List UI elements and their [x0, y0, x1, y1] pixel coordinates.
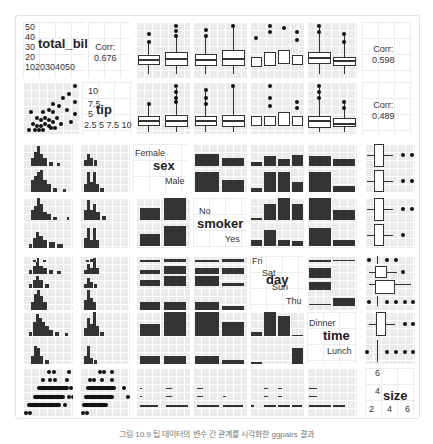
ytick: 5 — [88, 109, 93, 119]
scatter-size-total_bill — [23, 368, 73, 416]
strip-size-time — [307, 368, 357, 416]
bar-time-smoker — [193, 312, 247, 364]
level-label: Dinner — [309, 318, 336, 328]
diag-sex: Female sex Male — [133, 144, 187, 192]
bar-sex-time — [307, 144, 357, 192]
corr-label: Corr: — [372, 44, 395, 55]
var-label-total_bill: total_bill — [38, 36, 91, 51]
bar-sex-smoker — [193, 144, 247, 192]
box-time-size — [365, 312, 415, 364]
diag-size: 6 4 size 2 4 6 — [365, 368, 415, 416]
bar-day-smoker — [193, 256, 247, 310]
var-label-tip: tip — [96, 102, 112, 117]
xtick: 6 — [405, 404, 410, 414]
box-tip-sex — [136, 82, 190, 134]
level-label: Yes — [225, 234, 240, 244]
bar-time-day — [250, 312, 304, 364]
corr-total_bill-tip: Corr:0.676 — [88, 22, 130, 78]
corr-total_bill-size: Corr:0.598 — [362, 22, 412, 78]
xtick: 4 — [387, 404, 392, 414]
corr-label: Corr: — [372, 100, 395, 111]
hist-sex-total_bill — [23, 144, 73, 192]
var-label-smoker: smoker — [197, 216, 243, 231]
diag-day: Fri Sat day Sun Thu — [250, 256, 304, 310]
scatter-size-tip — [80, 368, 130, 416]
hist-day-total_bill — [23, 256, 73, 310]
box-total_bill-sex — [136, 22, 190, 78]
bar-smoker-time — [307, 198, 357, 248]
xticks: 1020304050 — [25, 62, 75, 72]
box-total_bill-smoker — [193, 22, 247, 78]
ytick: 10 — [88, 86, 98, 96]
strip-size-smoker — [193, 368, 247, 416]
diag-tip: 10 7.5 5 tip 2.5 5 7.5 10 — [82, 82, 132, 134]
hist-smoker-total_bill — [23, 198, 73, 248]
diag-total_bill: 50 40 30 20 total_bill 1020304050 — [23, 22, 85, 78]
box-tip-day — [250, 82, 304, 134]
hist-smoker-tip — [80, 198, 130, 248]
box-smoker-size — [365, 198, 415, 248]
var-label-size: size — [383, 388, 408, 403]
xticks: 2.5 5 7.5 10 — [84, 120, 132, 130]
xtick: 2 — [369, 404, 374, 414]
box-day-size — [365, 256, 415, 310]
level-label: Fri — [252, 256, 263, 266]
box-sex-size — [365, 144, 415, 192]
corr-value: 0.489 — [372, 111, 395, 122]
var-label-time: time — [323, 328, 350, 343]
hist-time-tip — [80, 312, 130, 364]
figure-caption: 그림 10.9 팁 데이터의 변수 간 관계를 시각화한 ggpairs 결과 — [0, 428, 433, 439]
level-label: Female — [135, 148, 165, 158]
bar-time-sex — [136, 312, 190, 364]
level-label: No — [199, 206, 211, 216]
corr-value: 0.598 — [372, 55, 395, 66]
strip-size-sex — [136, 368, 190, 416]
diag-time: Dinner time Lunch — [307, 312, 357, 364]
ytick: 4 — [375, 386, 380, 396]
strip-size-day — [250, 368, 304, 416]
ytick: 20 — [25, 52, 35, 62]
scatter-tip-total_bill — [23, 82, 79, 134]
level-label: Lunch — [327, 346, 352, 356]
scatter-points — [23, 82, 79, 134]
corr-tip-size: Corr:0.489 — [362, 82, 412, 134]
box-tip-time — [307, 82, 357, 134]
ytick: 50 — [25, 22, 35, 32]
diag-smoker: No smoker Yes — [193, 198, 247, 248]
level-label: Sun — [272, 282, 288, 292]
box-tip-smoker — [193, 82, 247, 134]
corr-label: Corr: — [94, 42, 117, 53]
box-total_bill-time — [307, 22, 357, 78]
corr-value: 0.676 — [94, 53, 117, 64]
bar-sex-day — [250, 144, 304, 192]
level-label: Male — [165, 176, 185, 186]
ytick: 40 — [25, 32, 35, 42]
bar-day-sex — [136, 256, 190, 310]
ytick: 30 — [25, 42, 35, 52]
level-label: Thu — [286, 296, 302, 306]
box-total_bill-day — [250, 22, 304, 78]
ytick: 6 — [375, 368, 380, 378]
bar-smoker-day — [250, 198, 304, 248]
var-label-sex: sex — [153, 158, 175, 173]
hist-time-total_bill — [23, 312, 73, 364]
hist-day-tip — [80, 256, 130, 310]
bar-day-time — [307, 256, 357, 310]
hist-sex-tip — [80, 144, 130, 192]
bar-smoker-sex — [136, 198, 190, 248]
